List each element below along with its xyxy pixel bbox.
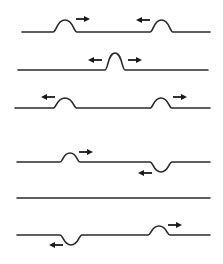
arrow-right-icon bbox=[168, 222, 182, 228]
arrow-right-icon bbox=[76, 16, 90, 22]
string-line bbox=[17, 153, 210, 172]
string-line bbox=[17, 226, 210, 245]
wave-pulse-diagram bbox=[0, 0, 223, 264]
string-line bbox=[18, 53, 208, 70]
arrow-left-icon bbox=[138, 170, 152, 176]
diagram-canvas bbox=[0, 0, 223, 264]
arrow-right-icon bbox=[79, 149, 93, 155]
arrow-left-icon bbox=[88, 57, 102, 63]
string-line bbox=[15, 98, 210, 108]
string-frame-4 bbox=[17, 149, 210, 176]
string-frame-2 bbox=[18, 53, 208, 70]
arrow-left-icon bbox=[41, 94, 55, 100]
string-frame-3 bbox=[15, 94, 210, 108]
string-frame-6 bbox=[17, 222, 210, 248]
string-frame-1 bbox=[22, 16, 210, 32]
arrow-right-icon bbox=[173, 94, 187, 100]
string-line bbox=[22, 20, 210, 32]
arrow-left-icon bbox=[49, 242, 63, 248]
arrow-right-icon bbox=[128, 57, 142, 63]
arrow-left-icon bbox=[136, 17, 150, 23]
